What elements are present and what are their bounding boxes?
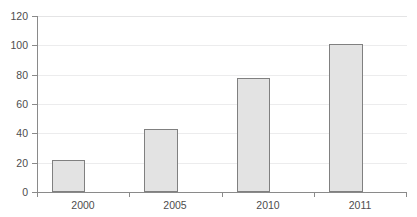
x-tick-label-2010: 2010: [222, 199, 314, 211]
x-sep-tick-3: [314, 192, 315, 197]
y-tick-mark-60: [32, 104, 37, 105]
y-tick-label-0: 0: [0, 187, 28, 197]
bar-chart: 120 100 80 60 40 20 0 2000 2005 2010 201…: [0, 0, 417, 217]
bar-2005: [144, 129, 178, 192]
y-tick-label-40: 40: [0, 128, 28, 138]
y-tick-mark-100: [32, 45, 37, 46]
y-tick-mark-20: [32, 163, 37, 164]
y-tick-mark-40: [32, 133, 37, 134]
bar-2011: [329, 44, 363, 192]
y-axis-line: [37, 16, 38, 193]
x-tick-label-2011: 2011: [314, 199, 406, 211]
x-sep-tick-2: [222, 192, 223, 197]
x-tick-label-2005: 2005: [129, 199, 221, 211]
x-sep-tick-1: [129, 192, 130, 197]
x-sep-tick-0: [37, 192, 38, 197]
bar-2000: [52, 160, 86, 192]
y-tick-label-60: 60: [0, 99, 28, 109]
y-tick-label-100: 100: [0, 40, 28, 50]
y-tick-label-80: 80: [0, 70, 28, 80]
bar-2010: [237, 78, 271, 192]
chart-title: [0, 0, 417, 3]
gridline-120: [37, 16, 407, 17]
y-tick-label-20: 20: [0, 158, 28, 168]
y-tick-mark-120: [32, 16, 37, 17]
x-tick-label-2000: 2000: [37, 199, 129, 211]
y-tick-mark-80: [32, 75, 37, 76]
y-tick-label-120: 120: [0, 11, 28, 21]
x-sep-tick-4: [406, 192, 407, 197]
plot-area: [37, 16, 407, 192]
